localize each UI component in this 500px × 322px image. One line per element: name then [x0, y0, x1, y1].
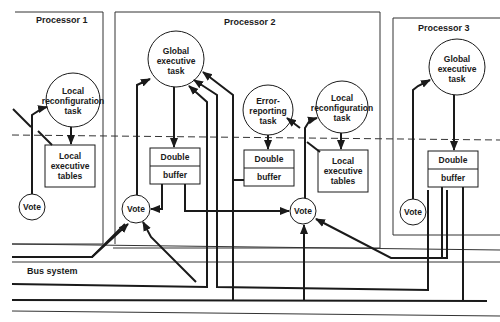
- label-line: Error-: [243, 96, 293, 106]
- label-line: reporting: [243, 106, 293, 116]
- label-line: Local: [40, 86, 106, 96]
- bus-lines-thin: [12, 244, 500, 316]
- label-line: executive: [45, 161, 95, 171]
- p2-global-exec-label: Global executive task: [148, 46, 204, 76]
- label-line: Local: [309, 93, 375, 103]
- label-line: Global: [148, 46, 204, 56]
- p2-local-tables-label: Local executive tables: [318, 156, 368, 186]
- label-line: task: [243, 116, 293, 126]
- p1-local-reconfig-label: Local reconfiguration task: [40, 86, 106, 116]
- p3-buffer-bottom-label: buffer: [428, 173, 478, 183]
- dashed-separator: [12, 135, 500, 140]
- label-line: Global: [429, 54, 485, 64]
- p1-vote-label: Vote: [19, 202, 45, 212]
- label-line: executive: [318, 166, 368, 176]
- p2-error-report-label: Error- reporting task: [243, 96, 293, 126]
- processor-2-title: Processor 2: [224, 17, 276, 27]
- label-line: task: [148, 66, 204, 76]
- p3-global-exec-label: Global executive task: [429, 54, 485, 84]
- p1-local-tables-label: Local executive tables: [45, 151, 95, 181]
- label-line: task: [429, 74, 485, 84]
- processor-3-title: Processor 3: [418, 23, 470, 33]
- p2-vote-a-label: Vote: [122, 204, 150, 214]
- p2-buffer-b-bottom-label: buffer: [244, 172, 294, 182]
- processor-1-title: Processor 1: [36, 15, 88, 25]
- p2-local-reconfig-label: Local reconfiguration task: [309, 93, 375, 123]
- label-line: Local: [318, 156, 368, 166]
- p3-vote-label: Vote: [400, 207, 426, 217]
- label-line: reconfiguration: [309, 103, 375, 113]
- p2-vote-b-label: Vote: [290, 206, 316, 216]
- bus-system-label: Bus system: [27, 266, 78, 276]
- label-line: tables: [318, 176, 368, 186]
- label-line: task: [309, 113, 375, 123]
- label-line: executive: [148, 56, 204, 66]
- label-line: reconfiguration: [40, 96, 106, 106]
- p3-buffer-top-label: Double: [428, 155, 478, 165]
- label-line: Local: [45, 151, 95, 161]
- p2-buffer-b-top-label: Double: [244, 154, 294, 164]
- label-line: executive: [429, 64, 485, 74]
- label-line: task: [40, 106, 106, 116]
- p2-buffer-a-bottom-label: buffer: [150, 170, 200, 180]
- p2-buffer-a-top-label: Double: [150, 152, 200, 162]
- label-line: tables: [45, 171, 95, 181]
